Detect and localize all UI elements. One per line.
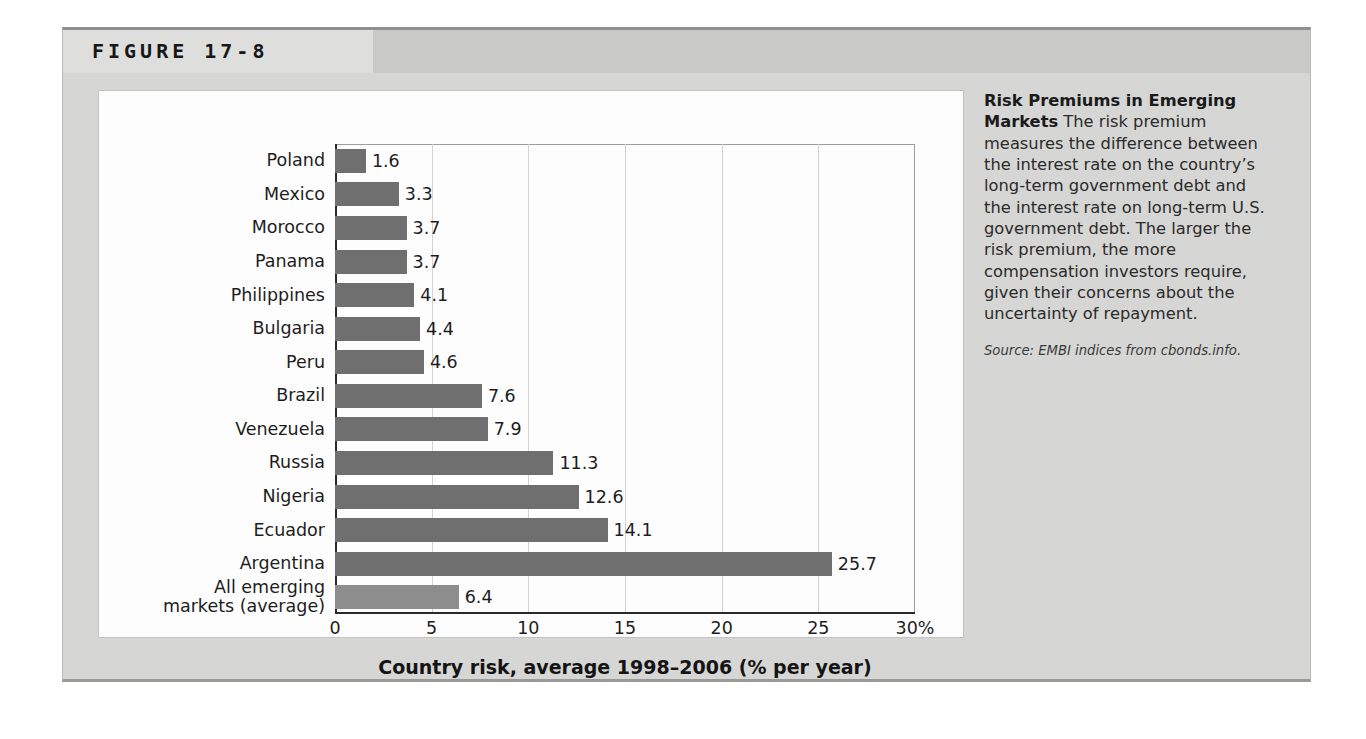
bar-value-label: 11.3: [553, 453, 598, 473]
bar-row: 3.7: [335, 250, 915, 274]
category-label-line: Ecuador: [253, 521, 325, 540]
category-label-line: Morocco: [252, 218, 325, 237]
figure-container: FIGURE 17-8 1.63.33.73.74.14.44.67.67.91…: [62, 27, 1311, 682]
bar: [335, 283, 414, 307]
category-labels-group: PolandMexicoMoroccoPanamaPhilippinesBulg…: [110, 144, 325, 614]
category-label: Philippines: [231, 286, 325, 305]
figure-header-band: FIGURE 17-8: [63, 30, 1310, 73]
category-label-line: Venezuela: [235, 420, 325, 439]
category-label-line: Argentina: [240, 554, 325, 573]
bar-value-label: 7.9: [488, 419, 522, 439]
bar-row: 4.1: [335, 283, 915, 307]
x-tick-label: 20: [711, 618, 733, 638]
category-label-line: All emerging: [163, 578, 325, 597]
bar-value-label: 3.7: [407, 218, 441, 238]
x-axis-line: [335, 612, 915, 614]
x-tick-label: 30%: [896, 618, 935, 638]
bar-value-label: 3.7: [407, 252, 441, 272]
bar: [335, 552, 832, 576]
category-label: Ecuador: [253, 521, 325, 540]
category-label: Poland: [267, 151, 325, 170]
bar-row: 3.3: [335, 182, 915, 206]
bar-value-label: 4.4: [420, 319, 454, 339]
bar-value-label: 25.7: [832, 554, 877, 574]
bar: [335, 317, 420, 341]
bar-value-label: 6.4: [459, 587, 493, 607]
category-label: Venezuela: [235, 420, 325, 439]
category-label: Bulgaria: [252, 319, 325, 338]
bar: [335, 417, 488, 441]
gridline: [625, 144, 626, 614]
x-tick-label: 15: [614, 618, 636, 638]
bar-value-label: 4.6: [424, 352, 458, 372]
category-label-line: Poland: [267, 151, 325, 170]
x-tick-label: 0: [329, 618, 340, 638]
category-label-line: Peru: [286, 353, 325, 372]
bar: [335, 250, 407, 274]
bar-row: 11.3: [335, 451, 915, 475]
bar-row: 3.7: [335, 216, 915, 240]
bar: [335, 350, 424, 374]
bar: [335, 518, 608, 542]
bar: [335, 216, 407, 240]
bar-row: 7.6: [335, 384, 915, 408]
category-label: Peru: [286, 353, 325, 372]
category-label-line: Philippines: [231, 286, 325, 305]
category-label: Morocco: [252, 218, 325, 237]
bar-row: 1.6: [335, 149, 915, 173]
category-label: Panama: [255, 252, 325, 271]
category-label-line: markets (average): [163, 597, 325, 616]
bar: [335, 451, 553, 475]
caption-column: Risk Premiums in Emerging Markets The ri…: [984, 90, 1274, 358]
gridline: [528, 144, 529, 614]
bar: [335, 149, 366, 173]
bar-value-label: 14.1: [608, 520, 653, 540]
category-label-line: Bulgaria: [252, 319, 325, 338]
bar: [335, 485, 579, 509]
bar: [335, 384, 482, 408]
bar: [335, 585, 459, 609]
x-tick-label: 10: [517, 618, 539, 638]
bar-row: 6.4: [335, 585, 915, 609]
bar-row: 14.1: [335, 518, 915, 542]
category-label: All emergingmarkets (average): [163, 578, 325, 616]
y-axis-line: [335, 144, 337, 614]
category-label-line: Brazil: [276, 386, 325, 405]
gridline: [722, 144, 723, 614]
category-label-line: Mexico: [264, 185, 325, 204]
x-tick-label: 25: [807, 618, 829, 638]
chart-panel: 1.63.33.73.74.14.44.67.67.911.312.614.12…: [98, 90, 964, 638]
x-axis-title: Country risk, average 1998–2006 (% per y…: [335, 656, 915, 678]
bar-row: 4.6: [335, 350, 915, 374]
caption-text: Risk Premiums in Emerging Markets The ri…: [984, 90, 1274, 325]
category-label: Argentina: [240, 554, 325, 573]
category-label: Mexico: [264, 185, 325, 204]
bar-value-label: 3.3: [399, 184, 433, 204]
bar-value-label: 4.1: [414, 285, 448, 305]
category-label-line: Panama: [255, 252, 325, 271]
category-label-line: Nigeria: [262, 487, 325, 506]
bar-row: 4.4: [335, 317, 915, 341]
caption-source: Source: EMBI indices from cbonds.info.: [984, 343, 1274, 358]
bar-value-label: 12.6: [579, 487, 624, 507]
gridline: [818, 144, 819, 614]
bar-value-label: 1.6: [366, 151, 400, 171]
bar-value-label: 7.6: [482, 386, 516, 406]
gridline: [432, 144, 433, 614]
category-label-line: Russia: [269, 453, 325, 472]
x-tick-label: 5: [426, 618, 437, 638]
bar-row: 12.6: [335, 485, 915, 509]
bar-row: 25.7: [335, 552, 915, 576]
category-label: Nigeria: [262, 487, 325, 506]
figure-number-label: FIGURE 17-8: [92, 39, 268, 63]
category-label: Brazil: [276, 386, 325, 405]
category-label: Russia: [269, 453, 325, 472]
caption-body-text: The risk premium measures the difference…: [984, 112, 1265, 323]
bar: [335, 182, 399, 206]
bar-row: 7.9: [335, 417, 915, 441]
plot-area: 1.63.33.73.74.14.44.67.67.911.312.614.12…: [335, 144, 915, 614]
